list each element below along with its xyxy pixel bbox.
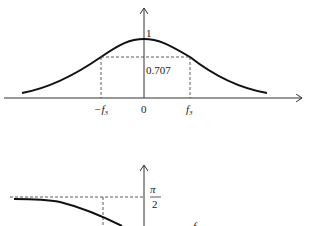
label-two: 2 — [152, 198, 158, 210]
magnitude-chart: 1 0.707 −f3 0 f3 — [4, 8, 302, 117]
label-f-partial: f — [193, 220, 198, 226]
phase-curve — [14, 199, 122, 226]
tick-zero: 0 — [141, 103, 147, 115]
tick-f3: f3 — [186, 103, 193, 117]
tick-neg-f3: −f3 — [94, 103, 108, 117]
label-one: 1 — [146, 27, 152, 39]
chart-canvas: 1 0.707 −f3 0 f3 π 2 f — [0, 0, 312, 226]
label-pi: π — [150, 183, 156, 195]
phase-chart: π 2 f — [10, 165, 198, 226]
label-0707: 0.707 — [146, 64, 171, 76]
